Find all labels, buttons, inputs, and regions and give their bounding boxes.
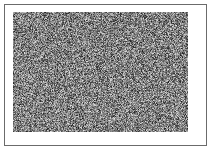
noise-figure-panel: Block of dense random grayscale pixel no… bbox=[0, 0, 211, 150]
random-noise-texture bbox=[13, 12, 188, 132]
noise-alt-text: Block of dense random grayscale pixel no… bbox=[0, 0, 1, 1]
